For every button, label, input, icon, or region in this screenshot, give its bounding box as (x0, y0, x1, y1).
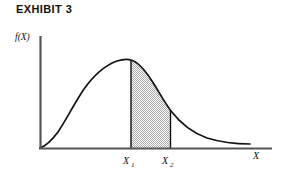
x1-tick-label-subscript: 1 (131, 161, 135, 169)
y-axis-label: f(X) (15, 32, 30, 43)
exhibit-figure: EXHIBIT 3 f(X) X (0, 0, 281, 179)
shaded-area-region (40, 59, 250, 148)
x-axis-label: X (252, 150, 260, 161)
x2-tick-label-subscript: 2 (170, 161, 174, 169)
x2-tick-label: X 2 (161, 155, 174, 169)
x2-tick-label-base: X (161, 155, 169, 166)
x1-tick-label: X 1 (122, 155, 135, 169)
x1-tick-label-base: X (122, 155, 130, 166)
distribution-chart: f(X) X X 1 X 2 (0, 0, 281, 179)
